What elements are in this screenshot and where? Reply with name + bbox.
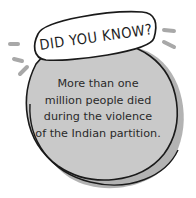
sparkle-dashes-right-icon [164, 30, 174, 47]
fact-line: during the violence [22, 109, 174, 126]
fact-line: million people died [22, 93, 174, 110]
fact-line: of the Indian partition. [22, 126, 174, 143]
fact-line: More than one [22, 76, 174, 93]
sparkle-dashes-left-icon [10, 44, 27, 74]
fact-text: More than one million people died during… [22, 76, 174, 142]
